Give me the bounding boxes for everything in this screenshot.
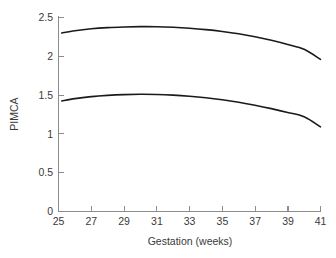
data-line-upper [62, 27, 321, 60]
x-tick-label: 35 [217, 215, 229, 227]
x-tick-label: 33 [184, 215, 196, 227]
x-tick-label: 37 [249, 215, 261, 227]
x-tick-label: 41 [315, 215, 327, 227]
x-tick-label: 29 [118, 215, 130, 227]
y-tick-labels: 0 0.5 1 1.5 2 2.5 [38, 11, 53, 217]
x-tick-labels: 25 27 29 31 33 35 37 39 41 [53, 215, 327, 227]
y-tick-label: 2.5 [38, 11, 53, 23]
y-axis-title: PIMCA [8, 97, 20, 130]
data-line-lower [62, 94, 321, 127]
x-tick-label: 27 [85, 215, 97, 227]
x-axis-title: Gestation (weeks) [148, 235, 233, 247]
y-tick-label: 2 [47, 50, 53, 62]
x-tick-marks [59, 206, 321, 212]
y-tick-marks [59, 18, 64, 212]
line-chart: 0 0.5 1 1.5 2 2.5 25 27 29 31 33 35 37 3… [0, 0, 336, 258]
x-tick-label: 31 [151, 215, 163, 227]
x-tick-label: 25 [53, 215, 65, 227]
y-tick-label: 1.5 [38, 89, 53, 101]
chart-figure: 0 0.5 1 1.5 2 2.5 25 27 29 31 33 35 37 3… [0, 0, 336, 258]
y-tick-label: 0.5 [38, 166, 53, 178]
y-tick-label: 1 [47, 128, 53, 140]
x-tick-label: 39 [282, 215, 294, 227]
